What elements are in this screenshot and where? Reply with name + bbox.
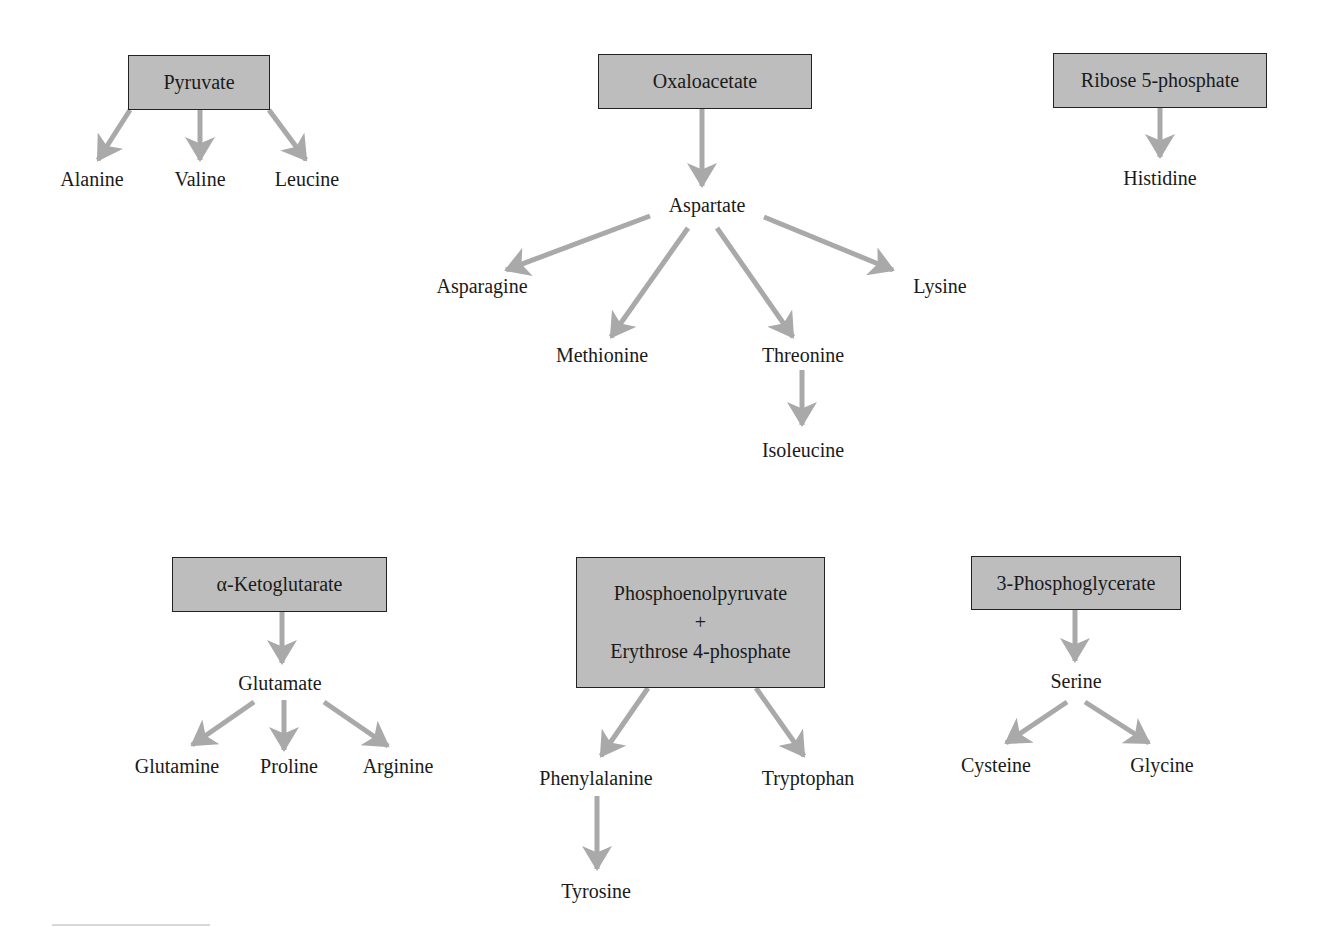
precursor-box-pyruvate: Pyruvate bbox=[128, 55, 270, 110]
intermediate-glutamate: Glutamate bbox=[238, 672, 321, 695]
product-lysine: Lysine bbox=[913, 275, 966, 298]
precursor-box-oxaloacetate: Oxaloacetate bbox=[598, 54, 812, 109]
product-phenylalanine: Phenylalanine bbox=[539, 767, 652, 790]
precursor-box-ribose-5-phosphate: Ribose 5-phosphate bbox=[1053, 53, 1267, 108]
arrow-aspartate-asparagine bbox=[506, 216, 650, 270]
product-arginine: Arginine bbox=[363, 755, 434, 778]
precursor-label: α-Ketoglutarate bbox=[217, 570, 343, 599]
precursor-label: Pyruvate bbox=[163, 68, 234, 97]
intermediate-serine: Serine bbox=[1050, 670, 1101, 693]
footer-rule bbox=[52, 924, 210, 926]
arrow-aspartate-lysine bbox=[764, 217, 893, 270]
product-tryptophan: Tryptophan bbox=[762, 767, 855, 790]
product-threonine: Threonine bbox=[762, 344, 844, 367]
product-glycine: Glycine bbox=[1130, 754, 1193, 777]
arrow-serine-glycine bbox=[1085, 702, 1149, 743]
product-proline: Proline bbox=[260, 755, 318, 778]
precursor-label-line-2: Erythrose 4-phosphate bbox=[610, 637, 791, 666]
arrow-pyruvate-leucine bbox=[269, 110, 306, 160]
arrow-glutamate-glutamine bbox=[192, 702, 254, 745]
precursor-box-pep-e4p: Phosphoenolpyruvate + Erythrose 4-phosph… bbox=[576, 557, 825, 688]
plus-sign: + bbox=[695, 608, 706, 637]
product-alanine: Alanine bbox=[60, 168, 123, 191]
precursor-label: Oxaloacetate bbox=[653, 67, 757, 96]
product-valine: Valine bbox=[174, 168, 225, 191]
intermediate-aspartate: Aspartate bbox=[669, 194, 746, 217]
product-cysteine: Cysteine bbox=[961, 754, 1031, 777]
arrow-glutamate-arginine bbox=[324, 702, 388, 746]
product-leucine: Leucine bbox=[275, 168, 339, 191]
product-isoleucine: Isoleucine bbox=[762, 439, 844, 462]
arrow-pep-tryptophan bbox=[756, 688, 804, 756]
precursor-box-alpha-ketoglutarate: α-Ketoglutarate bbox=[172, 557, 387, 612]
arrow-pyruvate-alanine bbox=[98, 110, 130, 160]
arrows-layer bbox=[0, 0, 1324, 927]
arrow-aspartate-threonine bbox=[717, 228, 793, 337]
product-tyrosine: Tyrosine bbox=[561, 880, 631, 903]
arrow-serine-cysteine bbox=[1006, 702, 1067, 743]
product-asparagine: Asparagine bbox=[436, 275, 527, 298]
arrow-pep-phenylalanine bbox=[601, 688, 648, 756]
product-glutamine: Glutamine bbox=[135, 755, 219, 778]
arrow-aspartate-methionine bbox=[611, 228, 688, 337]
product-histidine: Histidine bbox=[1123, 167, 1196, 190]
precursor-label-line-1: Phosphoenolpyruvate bbox=[614, 579, 787, 608]
precursor-label: 3-Phosphoglycerate bbox=[997, 569, 1156, 598]
precursor-box-3-phosphoglycerate: 3-Phosphoglycerate bbox=[971, 556, 1181, 610]
product-methionine: Methionine bbox=[556, 344, 648, 367]
precursor-label: Ribose 5-phosphate bbox=[1081, 66, 1239, 95]
